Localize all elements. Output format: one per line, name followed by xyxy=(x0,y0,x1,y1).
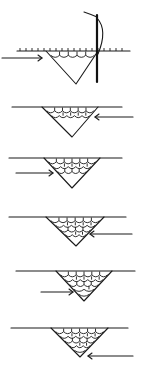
weld-beads xyxy=(47,108,94,118)
panel-step-6 xyxy=(11,328,133,359)
panel-step-3 xyxy=(9,158,122,188)
weld-beads xyxy=(51,52,95,58)
v-groove xyxy=(46,51,98,84)
weld-beads xyxy=(49,159,96,174)
weld-sequence-diagram xyxy=(0,0,146,373)
direction-arrow-left-icon xyxy=(88,353,133,359)
electrode-icon xyxy=(84,12,103,82)
direction-arrow-right-icon xyxy=(16,170,53,176)
panel-step-4 xyxy=(9,217,132,246)
direction-arrow-left-icon xyxy=(95,114,133,120)
direction-arrow-right-icon xyxy=(41,289,73,295)
panel-step-5 xyxy=(16,271,135,301)
panel-step-2 xyxy=(12,107,133,137)
diagram-svg xyxy=(0,0,146,373)
direction-arrow-left-icon xyxy=(90,231,132,237)
direction-arrow-right-icon xyxy=(2,55,42,61)
panel-step-1 xyxy=(2,12,130,84)
